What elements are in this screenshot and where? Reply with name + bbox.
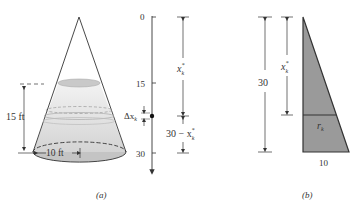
sample-point	[150, 114, 154, 118]
xk-star-label: x*k	[176, 62, 184, 76]
tick-0: 0	[140, 12, 145, 22]
base-label: 10	[319, 158, 329, 168]
liquid-surface	[58, 79, 100, 87]
remaining-distance-label: 30 − x*k	[166, 127, 195, 141]
diagram-canvas: 15 ft 10 ft 0 15 30 Δxk x*k 30 − x*k (a)	[0, 0, 363, 204]
tick-30: 30	[136, 149, 146, 159]
cone-figure: 15 ft 10 ft	[6, 17, 126, 162]
radius-label: 10 ft	[46, 148, 64, 158]
total-height-label: 30	[258, 77, 268, 88]
caption-a: (a)	[96, 190, 107, 200]
delta-x-label: Δxk	[124, 111, 137, 122]
caption-b: (b)	[302, 190, 313, 200]
x-axis: 0 15 30 Δxk	[124, 12, 156, 172]
xk-star-label-b: x*k	[280, 60, 288, 74]
height-label: 15 ft	[6, 111, 25, 122]
tick-15: 15	[136, 79, 146, 89]
cross-section-triangle	[303, 17, 349, 152]
distance-dimensions: x*k 30 − x*k	[166, 17, 195, 153]
triangle-figure: rk 10 30 x*k	[258, 17, 349, 168]
